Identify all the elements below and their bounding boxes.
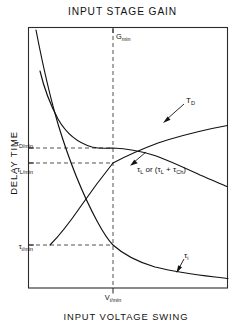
tick-label-tau-l-min-sub: L/min (20, 169, 33, 175)
curve-tau-l (50, 126, 228, 246)
leader-td (166, 104, 184, 120)
curve-label-tau-l-plus: + (164, 165, 173, 174)
tick-label-tau-d-min-sub: D/min (19, 143, 33, 149)
tick-label-vi-min-sub: i/min (110, 297, 121, 303)
curve-label-tau-l-c-sub: Ch (176, 169, 183, 175)
delay-time-figure: INPUT STAGE GAIN DELAY TIME INPUT VOLTAG… (0, 0, 245, 326)
tick-label-g-min-sub: min (122, 36, 131, 42)
tick-label-tau-d-min: τD/min (16, 139, 33, 149)
tick-label-tau-i-min: τi/min (19, 242, 33, 252)
plot-frame (29, 28, 228, 289)
tick-label-tau-i-min-sub: i/min (22, 246, 33, 252)
curve-label-tau-l-mid: or ( (143, 165, 158, 174)
curve-label-tau-l: τL or (τL + τCh) (137, 165, 186, 175)
figure-title: INPUT STAGE GAIN (68, 6, 177, 17)
curve-label-tau-l-close: ) (183, 165, 186, 174)
tick-label-vi-min: Vi/min (105, 293, 121, 303)
curve-label-td-sub: D (191, 100, 195, 106)
curve-td (40, 71, 227, 187)
x-axis-label: INPUT VOLTAGE SWING (64, 311, 189, 322)
curve-label-tau-i-sub: i (187, 255, 188, 261)
tick-label-tau-l-min: τL/min (17, 165, 33, 175)
curve-label-td: TD (186, 96, 195, 106)
curve-label-tau-i: τi (184, 251, 188, 261)
tick-label-g-min: Gmin (116, 32, 130, 42)
